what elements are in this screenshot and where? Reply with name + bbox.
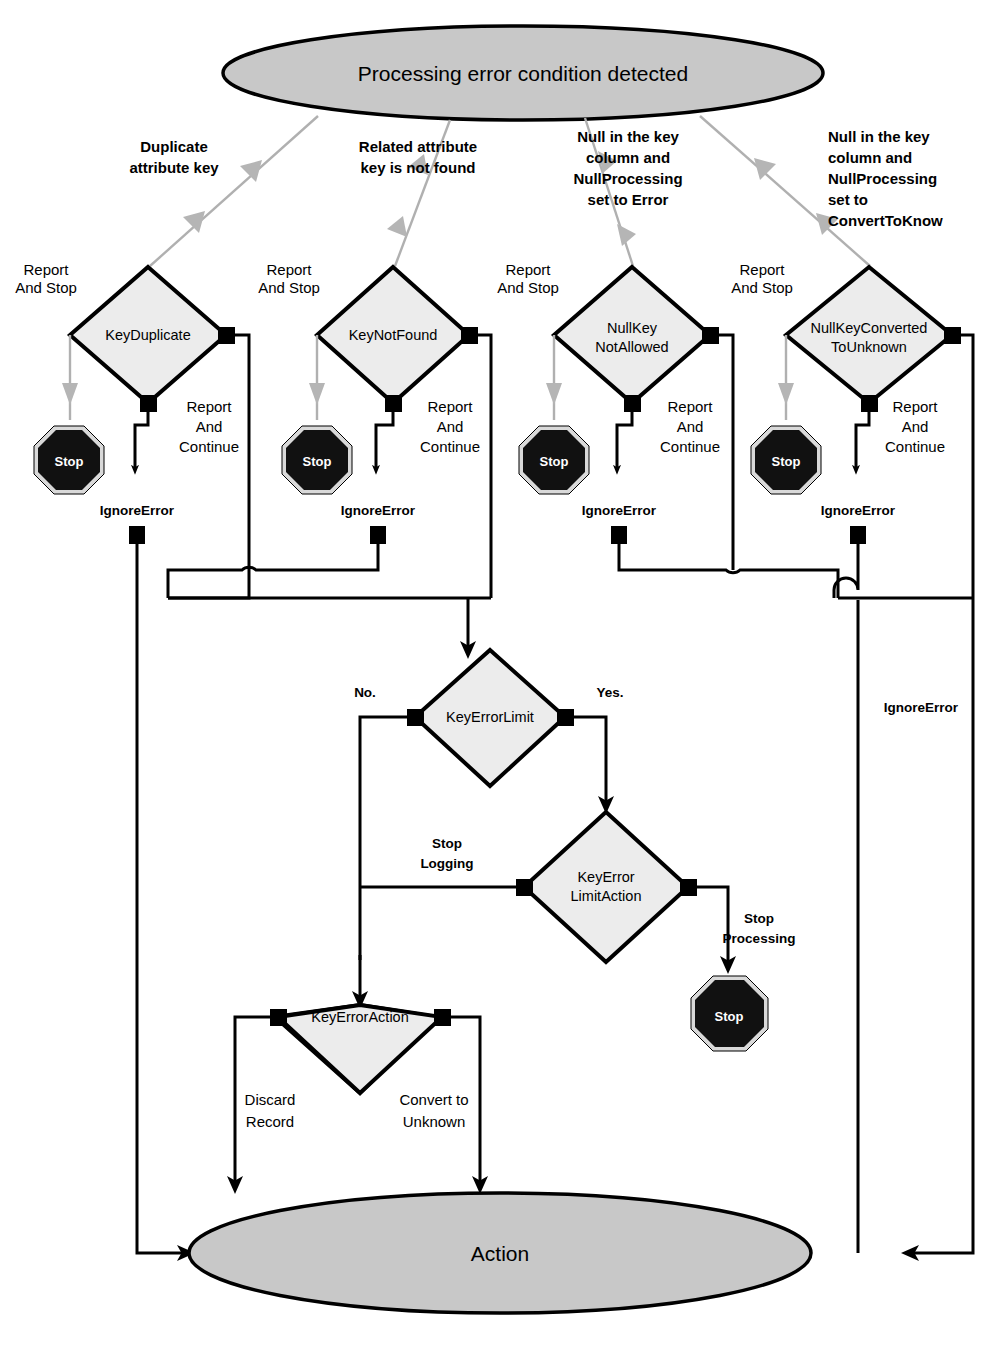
edge-label-report-and-continue-1a: Report [186,398,232,415]
svg-text:set to Error: set to Error [588,191,669,208]
stop-sign-1-label: Stop [55,454,84,469]
svg-text:column and: column and [586,149,670,166]
edge-label-report-and-stop-2a: Report [266,261,312,278]
node-keyerroraction: KeyErrorAction [275,1005,442,1093]
edge-label-stop-logging-a: Stop [432,836,462,851]
edge-label-report-and-stop-2b: And Stop [258,279,320,296]
edge-label-report-and-stop-1a: Report [23,261,69,278]
node-keyerrorlimitaction: KeyError LimitAction [524,812,688,962]
edge-label-discard-record-a: Discard [245,1091,296,1108]
svg-text:KeyDuplicate: KeyDuplicate [105,327,190,343]
edge-label-report-and-stop-3a: Report [505,261,551,278]
label-ignoreerror-1: IgnoreError [100,503,175,518]
svg-text:column and: column and [828,149,912,166]
edge-label-stop-logging-b: Logging [420,856,473,871]
edge-label-report-and-stop-4a: Report [739,261,785,278]
svg-text:ConvertToKnow: ConvertToKnow [828,212,943,229]
connector-square [850,526,866,544]
node-processing-error: Processing error condition detected [223,26,823,120]
svg-text:Null in the key: Null in the key [577,128,679,145]
edge-label-report-and-continue-4c: Continue [885,438,945,455]
edge-label-discard-record-b: Record [246,1113,294,1130]
connector-square [702,327,719,344]
node-keyerrorlimit: KeyErrorLimit [415,650,565,786]
svg-text:LimitAction: LimitAction [571,888,642,904]
stop-sign-2-label: Stop [303,454,332,469]
connector-square [385,395,402,412]
svg-text:NullProcessing: NullProcessing [573,170,682,187]
connector-square [218,327,235,344]
stop-sign-5: Stop [691,976,768,1051]
svg-text:KeyError: KeyError [577,869,634,885]
node-action-label: Action [471,1242,529,1265]
svg-text:Related attribute: Related attribute [359,138,477,155]
edge-label-report-and-continue-3a: Report [667,398,713,415]
stop-sign-1: Stop [34,426,104,494]
svg-text:KeyErrorAction: KeyErrorAction [311,1009,409,1025]
svg-text:NullKeyConverted: NullKeyConverted [811,320,928,336]
svg-text:Duplicate: Duplicate [140,138,208,155]
edge-label-no: No. [354,685,376,700]
edge-label-report-and-continue-2b: And [437,418,464,435]
svg-text:key is not found: key is not found [360,159,475,176]
node-action: Action [189,1193,811,1313]
edge-label-report-and-stop-1b: And Stop [15,279,77,296]
edge-label-report-and-continue-1b: And [196,418,223,435]
connector-square [461,327,478,344]
connector-square [611,526,627,544]
connector-square [944,327,961,344]
edge-label-report-and-continue-1c: Continue [179,438,239,455]
trigger-label-2: Related attribute key is not found [359,138,477,176]
node-keynotfound: KeyNotFound [317,267,469,403]
edge-label-report-and-continue-2c: Continue [420,438,480,455]
svg-text:NullKey: NullKey [607,320,658,336]
edge-label-yes: Yes. [596,685,623,700]
svg-text:KeyErrorLimit: KeyErrorLimit [446,709,534,725]
edge-label-report-and-stop-3b: And Stop [497,279,559,296]
connector-square [434,1009,451,1026]
trigger-label-3: Null in the key column and NullProcessin… [573,128,682,208]
svg-text:KeyNotFound: KeyNotFound [349,327,438,343]
flowchart-canvas: Processing error condition detected Dupl… [0,0,991,1359]
connector-square [407,709,424,726]
svg-text:Null in the key: Null in the key [828,128,930,145]
connector-square [680,879,697,896]
label-ignoreerror-right: IgnoreError [884,700,959,715]
stop-sign-3-label: Stop [540,454,569,469]
connector-square [557,709,574,726]
stop-sign-4-label: Stop [772,454,801,469]
edge-label-report-and-continue-2a: Report [427,398,473,415]
edge-label-convert-to-unknown-a: Convert to [399,1091,468,1108]
label-ignoreerror-4: IgnoreError [821,503,896,518]
node-keyduplicate: KeyDuplicate [70,267,226,403]
connector-square [516,879,533,896]
svg-text:ToUnknown: ToUnknown [831,339,907,355]
label-ignoreerror-3: IgnoreError [582,503,657,518]
edge-label-report-and-continue-3c: Continue [660,438,720,455]
label-ignoreerror-2: IgnoreError [341,503,416,518]
trigger-label-4: Null in the key column and NullProcessin… [828,128,943,229]
connector-square [129,526,145,544]
connector-square [140,395,157,412]
edge-label-report-and-continue-3b: And [677,418,704,435]
node-nullkeyconvertedtounknown: NullKeyConverted ToUnknown [786,267,952,403]
edge-label-convert-to-unknown-b: Unknown [403,1113,466,1130]
edge-label-report-and-continue-4b: And [902,418,929,435]
node-nullkeynotallowed: NullKey NotAllowed [554,267,710,403]
svg-text:set to: set to [828,191,868,208]
connector-square [370,526,386,544]
stop-sign-4: Stop [751,426,821,494]
svg-text:attribute key: attribute key [129,159,219,176]
connector-square [624,395,641,412]
trigger-label-1: Duplicate attribute key [129,138,219,176]
edge-label-stop-processing-b: Processing [723,931,796,946]
connector-square [270,1009,287,1026]
stop-sign-2: Stop [282,426,352,494]
edge-label-report-and-continue-4a: Report [892,398,938,415]
edge-label-stop-processing-a: Stop [744,911,774,926]
flowchart-svg: Processing error condition detected Dupl… [0,0,991,1359]
svg-text:NullProcessing: NullProcessing [828,170,937,187]
connector-square [861,395,878,412]
node-processing-error-label: Processing error condition detected [358,62,688,85]
edge-label-report-and-stop-4b: And Stop [731,279,793,296]
